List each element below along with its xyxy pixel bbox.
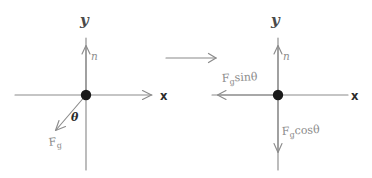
diagram-canvas: x y n Fg θ x — [0, 0, 372, 178]
panel-left: x y n Fg θ — [15, 11, 168, 170]
theta-angle-label-left: θ — [71, 111, 79, 124]
gravity-y-label-rest: cosθ — [294, 123, 320, 137]
gravity-x-label-rest: sinθ — [234, 70, 258, 84]
gravity-force-label-sub-left: g — [56, 141, 62, 150]
y-axis-label-left: y — [79, 11, 90, 29]
free-body-diagram-figure: x y n Fg θ x — [0, 0, 372, 178]
panel-right: x y n Fgsinθ Fgcosθ — [212, 11, 359, 170]
gravity-y-component-label: Fgcosθ — [281, 123, 320, 140]
transformation-arrow — [166, 54, 216, 63]
gravity-x-component-label: Fgsinθ — [221, 70, 258, 87]
x-axis-label-left: x — [160, 89, 168, 103]
origin-dot-left — [81, 90, 91, 100]
y-axis-label-right: y — [270, 11, 281, 29]
gravity-force-label-left: Fg — [48, 135, 62, 151]
normal-force-label-right: n — [283, 50, 290, 62]
x-axis-label-right: x — [351, 89, 359, 103]
origin-dot-right — [273, 90, 283, 100]
normal-force-label-left: n — [91, 50, 98, 62]
